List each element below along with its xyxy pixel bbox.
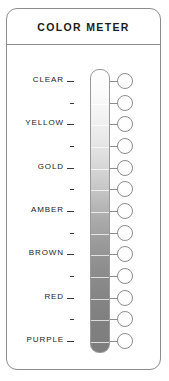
- meter-indicator-circle[interactable]: [117, 203, 133, 219]
- meter-indicator-circle[interactable]: [117, 73, 133, 89]
- meter-tick-mark: [67, 211, 74, 212]
- meter-indicator-circle[interactable]: [117, 181, 133, 197]
- meter-tick-mark: [70, 103, 74, 104]
- meter-tick-mark: [67, 254, 74, 255]
- meter-row-label: RED: [44, 292, 64, 301]
- meter-indicator-circle[interactable]: [117, 160, 133, 176]
- meter-row-label: GOLD: [38, 162, 64, 171]
- meter-tick-mark: [70, 233, 74, 234]
- meter-indicator-circle[interactable]: [117, 246, 133, 262]
- meter-tick-mark: [67, 168, 74, 169]
- meter-tick-mark: [67, 81, 74, 82]
- color-meter-scale: CLEARYELLOWGOLDAMBERBROWNREDPURPLE: [7, 45, 160, 370]
- meter-row-label: CLEAR: [33, 75, 64, 84]
- meter-indicator-circle[interactable]: [117, 138, 133, 154]
- meter-indicator-circle[interactable]: [117, 311, 133, 327]
- meter-row-label: AMBER: [31, 205, 64, 214]
- meter-tick-mark: [70, 276, 74, 277]
- meter-tick-mark: [70, 319, 74, 320]
- meter-indicator-circle[interactable]: [117, 225, 133, 241]
- meter-tick-mark: [70, 146, 74, 147]
- meter-row-label: YELLOW: [25, 118, 64, 127]
- color-meter-panel: COLOR METER CLEARYELLOWGOLDAMBERBROWNRED…: [6, 8, 161, 370]
- meter-indicator-circle[interactable]: [117, 333, 133, 349]
- meter-indicator-circle[interactable]: [117, 95, 133, 111]
- meter-tick-mark: [67, 124, 74, 125]
- meter-indicator-circle[interactable]: [117, 116, 133, 132]
- meter-row-label: PURPLE: [27, 335, 64, 344]
- meter-rows: CLEARYELLOWGOLDAMBERBROWNREDPURPLE: [7, 45, 160, 370]
- meter-tick-mark: [67, 298, 74, 299]
- meter-tick-mark: [67, 341, 74, 342]
- meter-indicator-circle[interactable]: [117, 268, 133, 284]
- panel-header: COLOR METER: [7, 9, 160, 45]
- meter-tick-mark: [70, 189, 74, 190]
- meter-indicator-circle[interactable]: [117, 290, 133, 306]
- meter-row-label: BROWN: [29, 248, 64, 257]
- page-title: COLOR METER: [37, 21, 129, 33]
